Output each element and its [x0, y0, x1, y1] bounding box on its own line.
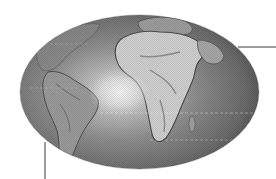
world-map-figure — [0, 0, 276, 179]
dither-texture — [0, 0, 276, 179]
globe — [0, 0, 276, 179]
world-map-svg — [0, 0, 276, 179]
